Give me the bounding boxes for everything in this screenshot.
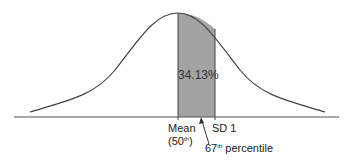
percentile-arrow xyxy=(202,121,209,144)
arrowhead-icon xyxy=(199,117,204,124)
area-percent-label: 34.13% xyxy=(178,68,219,82)
mean-percentile-label: (50th) xyxy=(168,135,193,147)
shaded-area-mean-to-sd1 xyxy=(178,13,215,117)
mean-label: Mean xyxy=(168,122,196,134)
sd1-label: SD 1 xyxy=(212,122,236,134)
mean-sub-close: ) xyxy=(189,135,193,147)
pct-rest: percentile xyxy=(222,142,273,154)
percentile-annotation: 67th percentile xyxy=(205,142,273,154)
mean-sub-open: (50 xyxy=(168,135,184,147)
pct-num: 67 xyxy=(205,142,217,154)
